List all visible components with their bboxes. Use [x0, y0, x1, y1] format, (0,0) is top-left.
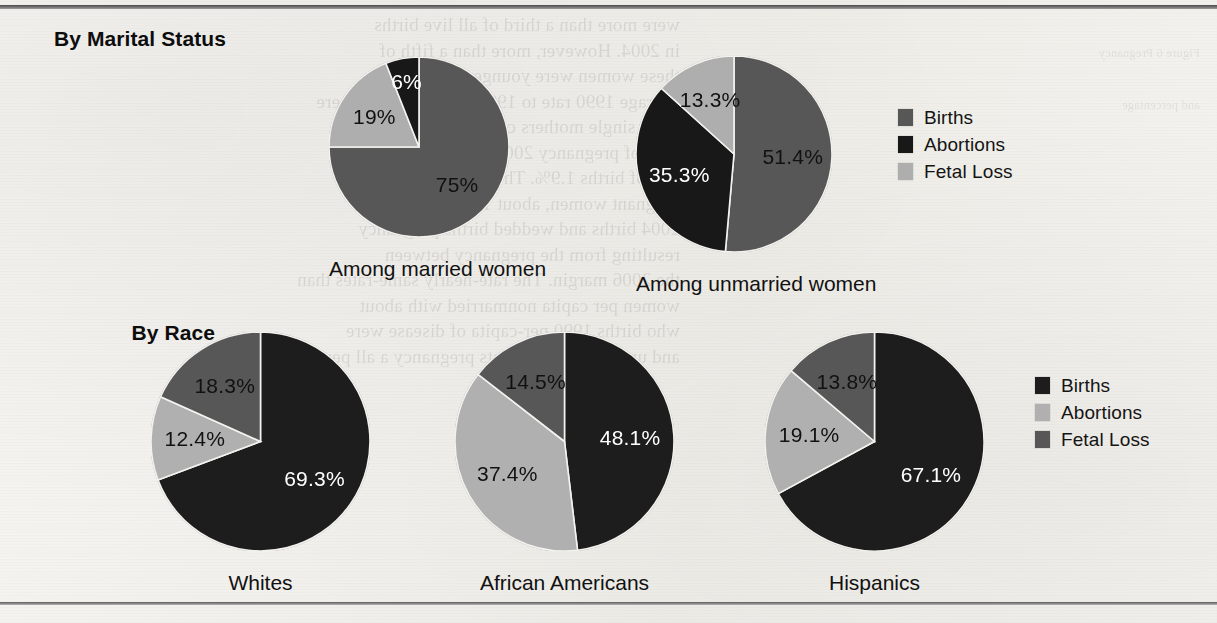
- pie-slice-label-births: 69.3%: [284, 467, 345, 491]
- pie-slice-label-abortions: 12.4%: [165, 427, 226, 451]
- pie-chart-caption: African Americans: [455, 571, 674, 595]
- section-title-marital-status: By Marital Status: [36, 26, 226, 51]
- legend-swatch-icon: [898, 109, 913, 126]
- race-legend: BirthsAbortionsFetal Loss: [1035, 376, 1150, 449]
- pie-slice-label-fetal-loss: 19%: [353, 105, 396, 129]
- pie-slice-label-births: 67.1%: [901, 463, 962, 487]
- pie-chart-unmarried-women: 51.4%35.3%13.3%Among unmarried women: [636, 56, 832, 306]
- pie-slice-label-births: 48.1%: [600, 426, 661, 450]
- pie-body: 51.4%35.3%13.3%: [636, 56, 832, 252]
- marital-status-legend: BirthsAbortionsFetal Loss: [898, 108, 1013, 181]
- pie-chart-caption: Whites: [151, 571, 370, 595]
- pie-chart-married-women: 75%19%6%Among married women: [329, 57, 509, 305]
- pie-chart-hispanics: 67.1%19.1%13.8%Hispanics: [765, 332, 984, 586]
- legend-label: Fetal Loss: [924, 161, 1013, 183]
- legend-swatch-icon: [1035, 431, 1050, 448]
- pie-body: 48.1%37.4%14.5%: [455, 332, 674, 551]
- bleed-through-text-right: Figure 6 Pregnancy and percentage: [1050, 40, 1200, 118]
- legend-item-fetal-loss: Fetal Loss: [898, 162, 1013, 181]
- legend-item-births: Births: [898, 108, 1013, 127]
- pie-slice-label-abortions: 37.4%: [477, 462, 538, 486]
- legend-swatch-icon: [1035, 377, 1050, 394]
- legend-label: Abortions: [1061, 402, 1142, 424]
- legend-swatch-icon: [1035, 404, 1050, 421]
- pie-body: 67.1%19.1%13.8%: [765, 332, 984, 551]
- pie-slice-label-fetal-loss: 18.3%: [194, 374, 255, 398]
- pie-slice-label-abortions: 6%: [391, 70, 422, 94]
- top-rule: [0, 5, 1217, 9]
- legend-item-births: Births: [1035, 376, 1150, 395]
- pie-chart-whites: 69.3%12.4%18.3%Whites: [151, 332, 370, 586]
- legend-label: Fetal Loss: [1061, 429, 1150, 451]
- legend-label: Births: [1061, 375, 1110, 397]
- pie-chart-caption: Among married women: [329, 257, 509, 281]
- pie-slice-label-births: 51.4%: [762, 145, 823, 169]
- pie-chart-caption: Among unmarried women: [636, 272, 832, 296]
- pie-slice-label-fetal-loss: 13.3%: [680, 88, 741, 112]
- pie-body: 69.3%12.4%18.3%: [151, 332, 370, 551]
- pie-chart-african-americans: 48.1%37.4%14.5%African Americans: [455, 332, 674, 586]
- legend-label: Abortions: [924, 134, 1005, 156]
- legend-item-abortions: Abortions: [1035, 403, 1150, 422]
- bottom-rule: [0, 602, 1217, 605]
- legend-swatch-icon: [898, 163, 913, 180]
- pie-body: 75%19%6%: [329, 57, 509, 237]
- legend-item-abortions: Abortions: [898, 135, 1013, 154]
- pie-slice-label-fetal-loss: 13.8%: [817, 370, 878, 394]
- legend-item-fetal-loss: Fetal Loss: [1035, 430, 1150, 449]
- legend-label: Births: [924, 107, 973, 129]
- pie-chart-caption: Hispanics: [765, 571, 984, 595]
- pie-slice-label-abortions: 35.3%: [649, 163, 710, 187]
- pie-slice-label-fetal-loss: 14.5%: [505, 370, 566, 394]
- pie-slice-label-abortions: 19.1%: [779, 423, 840, 447]
- legend-swatch-icon: [898, 136, 913, 153]
- pie-slice-label-births: 75%: [436, 173, 479, 197]
